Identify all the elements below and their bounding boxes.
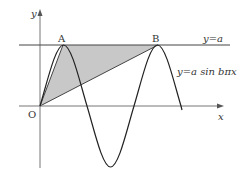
point-a-label: A [57, 33, 66, 44]
y-axis-label: y [30, 8, 37, 19]
y-axis-arrow-icon [38, 9, 43, 16]
point-b-label: B [152, 33, 159, 44]
origin-label: O [28, 109, 36, 120]
curve-equation-label: y=a sin bπx [176, 66, 237, 77]
x-axis-arrow-icon [217, 104, 224, 109]
x-axis-label: x [218, 111, 224, 122]
function-graph: y x O A B y=a y=a sin bπx [0, 0, 248, 179]
line-equation-label: y=a [202, 33, 223, 44]
